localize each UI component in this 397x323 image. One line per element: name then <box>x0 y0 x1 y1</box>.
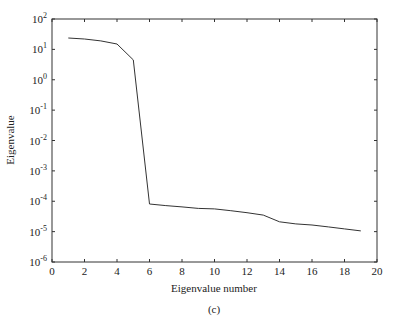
y-tick-label: 10-4 <box>29 193 47 207</box>
x-tick-label: 2 <box>82 265 88 277</box>
x-axis-label: Eigenvalue number <box>171 282 257 294</box>
y-axis-ticks: 10210110010-110-210-310-410-510-6 <box>29 11 377 268</box>
x-tick-label: 14 <box>274 265 286 277</box>
plot-frame <box>52 19 377 262</box>
y-tick-label: 102 <box>32 11 47 25</box>
y-tick-label: 10-6 <box>29 254 47 268</box>
y-tick-label: 10-5 <box>29 224 47 238</box>
y-tick-label: 100 <box>32 72 47 86</box>
x-tick-label: 8 <box>179 265 185 277</box>
x-tick-label: 10 <box>209 265 221 277</box>
eigenvalue-series-line <box>68 38 361 231</box>
y-tick-label: 10-3 <box>29 163 47 177</box>
x-tick-label: 6 <box>147 265 153 277</box>
x-axis-ticks: 02468101214161820 <box>49 19 383 277</box>
eigenvalue-chart: 10210110010-110-210-310-410-510-6 024681… <box>0 0 397 323</box>
y-tick-label: 101 <box>32 41 47 55</box>
x-tick-label: 12 <box>242 265 253 277</box>
y-tick-label: 10-1 <box>29 102 47 116</box>
x-tick-label: 20 <box>372 265 384 277</box>
x-tick-label: 0 <box>49 265 55 277</box>
y-tick-label: 10-2 <box>29 133 47 147</box>
y-axis-label: Eigenvalue <box>4 115 16 165</box>
x-tick-label: 16 <box>307 265 319 277</box>
x-tick-label: 4 <box>114 265 120 277</box>
x-tick-label: 18 <box>339 265 351 277</box>
chart-caption: (c) <box>208 303 221 316</box>
